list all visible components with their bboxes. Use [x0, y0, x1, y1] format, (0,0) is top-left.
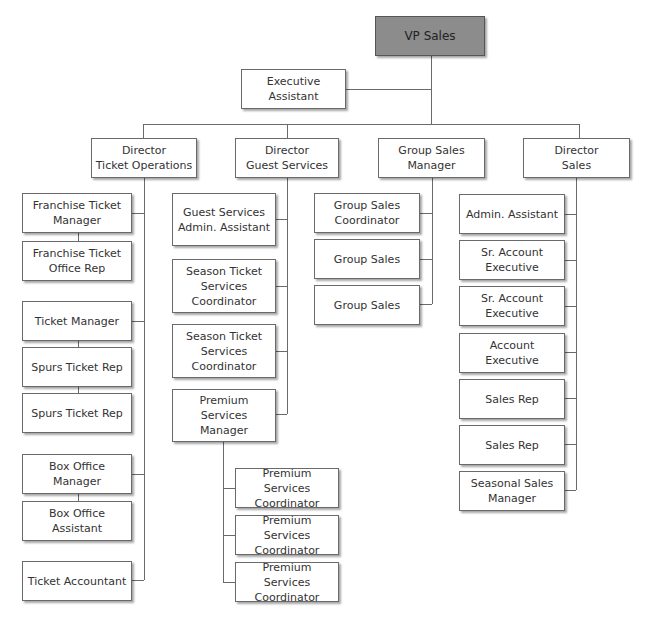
node-vp-sales: VP Sales — [375, 16, 485, 56]
connector — [144, 178, 145, 580]
node-sales-rep: Sales Rep — [459, 425, 565, 465]
connector — [420, 304, 432, 305]
connector — [579, 124, 580, 138]
connector — [276, 219, 287, 220]
node-guest-services-admin: Guest Services Admin. Assistant — [172, 193, 276, 246]
connector — [287, 124, 288, 138]
connector — [420, 213, 432, 214]
node-sr-account-executive: Sr. Account Executive — [459, 286, 565, 326]
connector — [143, 124, 144, 138]
node-premium-services-manager: Premium Services Manager — [172, 389, 276, 442]
node-franchise-ticket-manager: Franchise Ticket Manager — [22, 193, 132, 233]
node-sales-rep: Sales Rep — [459, 379, 565, 419]
node-executive-assistant: Executive Assistant — [241, 69, 346, 109]
node-season-ticket-coordinator: Season Ticket Services Coordinator — [172, 259, 276, 313]
node-director-ticket-ops: Director Ticket Operations — [91, 138, 197, 178]
node-box-office-assistant: Box Office Assistant — [22, 501, 132, 541]
node-sr-account-executive: Sr. Account Executive — [459, 240, 565, 280]
connector — [132, 580, 144, 581]
node-seasonal-sales-manager: Seasonal Sales Manager — [459, 471, 565, 511]
node-ticket-accountant: Ticket Accountant — [22, 561, 132, 601]
connector — [132, 321, 144, 322]
connector — [565, 260, 576, 261]
connector — [78, 493, 79, 501]
node-admin-assistant: Admin. Assistant — [459, 194, 565, 234]
connector — [565, 444, 576, 445]
node-group-sales-manager: Group Sales Manager — [378, 138, 485, 178]
node-premium-services-coordinator: Premium Services Coordinator — [235, 468, 339, 508]
connector — [276, 286, 287, 287]
connector — [132, 474, 144, 475]
connector — [223, 442, 224, 582]
connector — [78, 233, 79, 241]
connector — [576, 178, 577, 490]
node-director-guest-services: Director Guest Services — [235, 138, 339, 178]
connector — [287, 178, 288, 414]
node-ticket-manager: Ticket Manager — [22, 301, 132, 341]
node-spurs-ticket-rep: Spurs Ticket Rep — [22, 393, 132, 433]
connector — [565, 214, 576, 215]
connector — [223, 488, 235, 489]
connector — [432, 178, 433, 304]
node-spurs-ticket-rep: Spurs Ticket Rep — [22, 347, 132, 387]
node-director-sales: Director Sales — [523, 138, 630, 178]
node-group-sales-coordinator: Group Sales Coordinator — [314, 193, 420, 233]
node-box-office-manager: Box Office Manager — [22, 454, 132, 494]
connector — [223, 582, 235, 583]
connector — [565, 490, 576, 491]
node-premium-services-coordinator: Premium Services Coordinator — [235, 562, 339, 602]
connector — [276, 351, 287, 352]
connector — [565, 398, 576, 399]
connector — [223, 535, 235, 536]
connector — [420, 259, 432, 260]
node-franchise-ticket-office-rep: Franchise Ticket Office Rep — [22, 241, 132, 281]
connector — [345, 89, 431, 90]
connector — [431, 56, 432, 124]
node-premium-services-coordinator: Premium Services Coordinator — [235, 515, 339, 555]
connector — [276, 414, 287, 415]
connector — [565, 306, 576, 307]
node-season-ticket-coordinator: Season Ticket Services Coordinator — [172, 324, 276, 378]
node-account-executive: Account Executive — [459, 333, 565, 373]
connector — [143, 124, 580, 125]
connector — [132, 213, 144, 214]
node-group-sales: Group Sales — [314, 239, 420, 279]
connector — [565, 352, 576, 353]
node-group-sales: Group Sales — [314, 285, 420, 325]
